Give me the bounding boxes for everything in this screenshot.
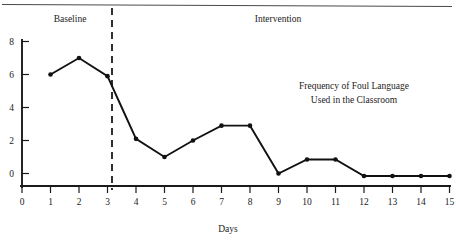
y-axis-ticks: [22, 42, 29, 174]
data-point-day-10: [305, 157, 310, 162]
x-axis-tick-labels: 0 1 2 3 4 5 6 7 8 9 10 11 12 13 14 15: [20, 197, 455, 207]
line-chart-canvas: 8 6 4 2 0 0 1 2: [0, 0, 456, 241]
data-point-day-6: [191, 138, 196, 143]
x-tick-label-14: 14: [416, 197, 426, 207]
x-tick-label-1: 1: [48, 197, 53, 207]
data-point-day-14: [419, 174, 424, 179]
x-axis-ticks: [22, 186, 450, 193]
x-tick-label-2: 2: [77, 197, 82, 207]
annotation-line-2: Used in the Classroom: [311, 95, 398, 105]
x-tick-label-8: 8: [248, 197, 253, 207]
data-point-day-2: [77, 56, 82, 61]
x-tick-label-3: 3: [105, 197, 110, 207]
y-tick-label-6: 6: [9, 70, 14, 80]
phase-label-baseline: Baseline: [54, 14, 87, 24]
x-axis-title: Days: [218, 224, 238, 234]
x-tick-label-13: 13: [388, 197, 398, 207]
x-tick-label-10: 10: [302, 197, 312, 207]
x-tick-label-15: 15: [445, 197, 455, 207]
data-point-day-15: [447, 174, 452, 179]
x-tick-label-9: 9: [276, 197, 281, 207]
y-tick-label-2: 2: [9, 136, 14, 146]
data-point-day-12: [362, 174, 367, 179]
chart-figure: 8 6 4 2 0 0 1 2: [0, 0, 456, 241]
data-point-day-11: [333, 157, 338, 162]
data-series-markers: [48, 56, 452, 179]
data-point-day-13: [390, 174, 395, 179]
y-axis-tick-labels: 8 6 4 2 0: [9, 37, 14, 179]
data-series-line: [51, 58, 450, 176]
data-point-day-8: [248, 123, 253, 128]
y-tick-label-8: 8: [9, 37, 14, 47]
data-point-day-1: [48, 72, 53, 77]
y-tick-label-4: 4: [9, 103, 14, 113]
x-tick-label-5: 5: [162, 197, 167, 207]
phase-label-intervention: Intervention: [255, 14, 302, 24]
x-tick-label-12: 12: [359, 197, 369, 207]
x-tick-label-11: 11: [331, 197, 340, 207]
page-edge-rule: [2, 5, 452, 7]
annotation-line-1: Frequency of Foul Language: [299, 81, 409, 91]
y-tick-label-0: 0: [9, 169, 14, 179]
x-tick-label-4: 4: [134, 197, 139, 207]
data-point-day-3: [105, 74, 110, 79]
data-point-day-7: [219, 123, 224, 128]
x-tick-label-0: 0: [20, 197, 25, 207]
x-tick-label-7: 7: [219, 197, 224, 207]
x-tick-label-6: 6: [191, 197, 196, 207]
data-point-day-5: [162, 155, 167, 160]
data-point-day-4: [134, 137, 139, 142]
data-point-day-9: [276, 171, 281, 176]
